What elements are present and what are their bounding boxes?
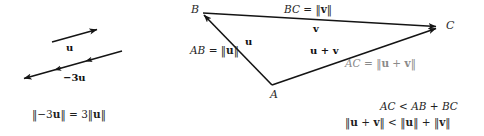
- norm-bar-close-l2a: ‖: [380, 116, 385, 128]
- norm-bar-close-l2b: ‖: [413, 116, 418, 128]
- vector-u-glyph-l2b: u: [406, 116, 414, 128]
- segment-length-label-AC: AC = ‖u + v‖: [345, 58, 416, 69]
- less-than-sign-1: <: [399, 100, 408, 112]
- plus-sign-l2b: +: [422, 116, 431, 128]
- vector-minus-3u-label: −3u: [63, 73, 86, 83]
- less-than-sign-2: <: [388, 116, 397, 128]
- vector-u-glyph-l2a: u: [350, 116, 358, 128]
- norm-bar-close: ‖: [60, 108, 65, 120]
- plus-sign-ac: +: [392, 57, 401, 69]
- vector-u-glyph-2: u: [93, 108, 101, 120]
- point-label-C: C: [446, 20, 454, 31]
- norm-bar-close-l2c: ‖: [445, 116, 450, 128]
- equals-sign-bc: =: [303, 3, 312, 15]
- triangle-inequality-line-1: AC < AB + BC: [380, 101, 458, 112]
- edge-vector-label-u-plus-v: u + v: [310, 46, 338, 56]
- norm-bar-close-ab: ‖: [234, 44, 239, 56]
- vector-u-glyph-uv: u: [310, 45, 317, 56]
- vector-figure: u −3u ‖−3u‖ = 3‖u‖ B C A BC = ‖v‖ AB = ‖…: [0, 0, 484, 136]
- equals-sign-ab: =: [209, 44, 218, 56]
- segment-BC-term: BC: [442, 100, 458, 112]
- equals-sign: =: [69, 108, 78, 120]
- plus-sign-uv: +: [321, 45, 329, 56]
- segment-name-AB: AB: [190, 44, 205, 56]
- plus-sign-l2a: +: [361, 116, 370, 128]
- scalar-three: 3: [81, 108, 88, 120]
- triangle-inequality-line-2: ‖u + v‖ < ‖u‖ + ‖v‖: [345, 117, 451, 128]
- norm-bar-close-bc: ‖: [327, 3, 332, 15]
- scalar-multiple-caption: ‖−3u‖ = 3‖u‖: [32, 109, 106, 120]
- plus-sign-1: +: [430, 100, 439, 112]
- point-label-B: B: [191, 4, 199, 15]
- vector-v-glyph-uv: v: [333, 45, 339, 56]
- norm-bar-close-ac: ‖: [411, 57, 416, 69]
- norm-bar-close-2: ‖: [101, 108, 106, 120]
- triangle-edge-BC: [203, 13, 436, 27]
- equals-sign-ac: =: [364, 57, 373, 69]
- vector-u-glyph-ac: u: [381, 57, 389, 69]
- edge-vector-label-u: u: [245, 37, 252, 47]
- point-label-A: A: [270, 89, 278, 100]
- vector-u-label: u: [66, 43, 73, 53]
- scalar-minus-three: −3: [37, 108, 52, 120]
- segment-AC-term: AC: [380, 100, 396, 112]
- segment-name-BC: BC: [284, 3, 300, 15]
- vector-u-glyph-ab: u: [226, 44, 234, 56]
- segment-AB-term: AB: [411, 100, 426, 112]
- vector-u-arrow: [52, 30, 97, 43]
- segment-length-label-AB: AB = ‖u‖: [190, 45, 239, 56]
- edge-vector-label-v: v: [313, 24, 319, 34]
- segment-length-label-BC: BC = ‖v‖: [284, 4, 332, 15]
- segment-name-AC: AC: [345, 57, 361, 69]
